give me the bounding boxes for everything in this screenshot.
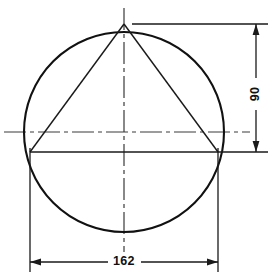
width-dimension-group: 162 [30,252,218,271]
extension-lines-group [30,24,268,272]
height-dimension-arrow-top [253,24,260,35]
centerlines-group [4,8,250,252]
technical-drawing-canvas: 90 162 [0,0,276,276]
height-dimension-group: 90 [248,24,265,152]
width-dimension-arrow-left [30,259,41,266]
width-dimension-arrow-right [207,259,218,266]
engineering-drawing-svg: 90 162 [0,0,276,276]
width-dimension-label: 162 [113,254,135,268]
height-dimension-arrow-bottom [253,141,260,152]
height-dimension-label: 90 [248,87,262,102]
